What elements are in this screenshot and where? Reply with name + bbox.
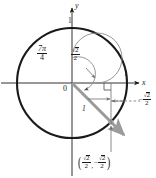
sqrt-icon: √ (144, 92, 147, 98)
point-y-numerator: √ 2 (98, 155, 107, 162)
angle-denominator: 4 (37, 53, 47, 62)
x-component-numerator: √ 2 (71, 47, 80, 54)
angle-arc (72, 33, 122, 90)
tick-label-y-one: 1 (68, 17, 72, 25)
x-axis-label: x (142, 79, 146, 87)
y-component-numerator: √ 2 (143, 92, 152, 99)
angle-label: 7π 4 (37, 45, 47, 62)
point-x-denominator: 2 (82, 162, 91, 170)
radius-length-label: 1 (82, 105, 86, 113)
tick-label-x-one: 1 (124, 70, 128, 78)
y-axis-label: y (75, 2, 79, 10)
origin-label: 0 (63, 85, 67, 93)
point-y-denominator: 2 (98, 162, 107, 170)
y-component-label: – √ 2 2 (139, 92, 151, 107)
terminal-ray (72, 83, 124, 135)
point-x-numerator: √ 2 (82, 155, 91, 162)
y-component-denominator: 2 (143, 99, 152, 107)
sqrt-icon: √ (72, 47, 75, 53)
x-component-label: √ 2 2 (71, 47, 80, 62)
x-component-label-leader (86, 68, 95, 78)
sqrt-icon: √ (99, 155, 102, 161)
open-paren: ( (78, 156, 81, 170)
x-component-denominator: 2 (71, 54, 80, 62)
angle-numerator: 7π (37, 45, 47, 53)
sqrt-icon: √ (83, 155, 86, 161)
unit-circle-figure: y x 0 1 1 7π 4 1 √ 2 2 – (0, 0, 156, 178)
diagram-canvas (0, 0, 156, 178)
close-paren: ) (107, 156, 110, 170)
point-coordinate-label: ( √ 2 2 ,– √ 2 2 ) (77, 155, 111, 170)
right-angle-marker (104, 83, 111, 90)
